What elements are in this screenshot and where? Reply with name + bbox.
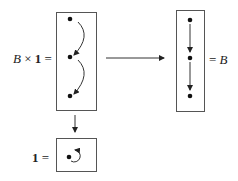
product-category-box <box>57 13 97 111</box>
result-label-var: B <box>220 52 228 67</box>
result-object-top <box>188 18 193 23</box>
result-label: = B <box>209 53 228 66</box>
product-label: B × 1 = <box>13 52 52 65</box>
curved-arrow-middle-bottom <box>74 60 84 94</box>
result-object-middle <box>188 56 193 61</box>
identity-object <box>67 155 72 160</box>
product-label-var: B <box>13 51 21 66</box>
product-object-top <box>68 17 73 22</box>
self-loop-arrow-icon <box>71 150 80 162</box>
product-label-times: × <box>21 51 35 66</box>
result-category-box <box>177 11 205 112</box>
result-object-bottom <box>188 94 193 99</box>
result-label-equals: = <box>209 52 220 67</box>
product-object-middle <box>68 55 73 60</box>
product-object-bottom <box>68 94 73 99</box>
identity-label: 1 = <box>32 151 49 164</box>
curved-arrow-top-middle <box>74 22 84 55</box>
identity-category-box <box>57 139 97 172</box>
identity-label-equals: = <box>39 150 50 165</box>
product-label-equals: = <box>41 51 52 66</box>
